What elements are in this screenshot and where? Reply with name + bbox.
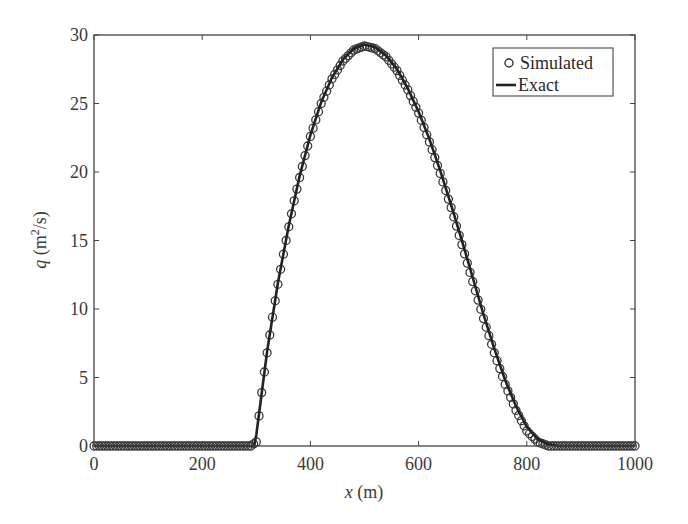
y-tick-label: 15 (70, 231, 88, 251)
y-tick-label: 25 (70, 94, 88, 114)
x-tick-label: 1000 (617, 454, 653, 474)
legend: Simulated Exact (493, 48, 613, 96)
legend-label-exact: Exact (518, 75, 559, 95)
y-tick-label: 5 (79, 368, 88, 388)
x-tick-label: 400 (297, 454, 324, 474)
y-tick-label: 30 (70, 25, 88, 45)
legend-label-simulated: Simulated (520, 53, 593, 73)
plot-frame (94, 35, 635, 446)
y-tick-label: 20 (70, 162, 88, 182)
y-tick-label: 10 (70, 299, 88, 319)
simulated-series (90, 42, 639, 450)
x-axis-ticks: 02004006008001000 (90, 35, 654, 474)
y-axis-label: q (m2/s) (28, 211, 51, 269)
x-axis-label: x (m) (344, 482, 384, 503)
exact-series-line (94, 45, 635, 446)
x-tick-label: 0 (90, 454, 99, 474)
x-tick-label: 800 (513, 454, 540, 474)
x-tick-label: 200 (189, 454, 216, 474)
y-tick-label: 0 (79, 436, 88, 456)
x-tick-label: 600 (405, 454, 432, 474)
chart: 02004006008001000 051015202530 x (m) q (… (0, 0, 688, 524)
